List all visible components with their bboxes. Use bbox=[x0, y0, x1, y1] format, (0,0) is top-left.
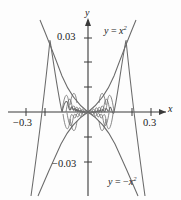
plot-canvas bbox=[0, 0, 181, 200]
x-axis-arrow bbox=[159, 109, 166, 115]
x-tick-label-right: 0.3 bbox=[143, 118, 156, 129]
curve-label-upper: y = x2 bbox=[104, 25, 127, 36]
y-tick-label-top: 0.03 bbox=[57, 32, 75, 43]
figure-container: y x 0.03 −0.03 −0.3 0.3 y = x2 y = −x2 bbox=[0, 0, 181, 200]
y-axis-label: y bbox=[85, 8, 89, 18]
x-tick-label-left: −0.3 bbox=[13, 118, 32, 129]
curve-label-lower: y = −x2 bbox=[108, 176, 136, 187]
axes bbox=[8, 20, 166, 196]
y-axis-arrow bbox=[85, 18, 91, 26]
y-tick-label-bottom: −0.03 bbox=[52, 159, 76, 170]
x-axis-label: x bbox=[168, 104, 172, 114]
